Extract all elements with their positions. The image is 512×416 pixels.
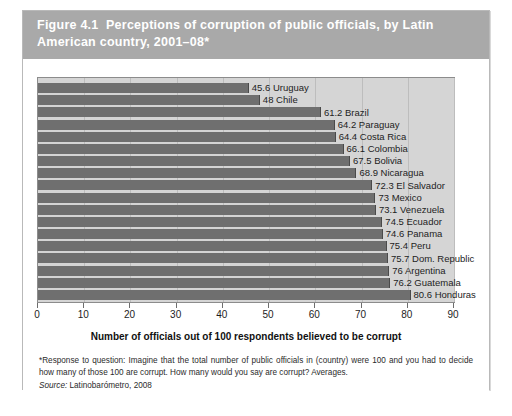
bar-data-label: 68.9 Nicaragua: [356, 168, 423, 178]
bar-row: 68.9 Nicaragua: [38, 168, 454, 178]
bar-row: 45.6 Uruguay: [38, 83, 454, 93]
bar-ecuador: [38, 217, 382, 227]
bar-row: 76 Argentina: [38, 266, 454, 276]
x-tick-mark: [222, 303, 223, 308]
bar-row: 61.2 Brazil: [38, 107, 454, 117]
bar-row: 73.1 Venezuela: [38, 205, 454, 215]
bar-data-label: 80.6 Honduras: [411, 290, 476, 300]
bar-row: 76.2 Guatemala: [38, 278, 454, 288]
bar-data-label: 45.6 Uruguay: [249, 83, 309, 93]
x-axis-title: Number of officials out of 100 responden…: [23, 331, 469, 342]
x-tick-label: 20: [124, 309, 135, 320]
bar-colombia: [38, 144, 344, 154]
x-tick-label: 90: [447, 309, 458, 320]
bar-panama: [38, 229, 383, 239]
bar-data-label: 67.5 Bolivia: [350, 156, 402, 166]
bar-data-label: 66.1 Colombia: [344, 144, 408, 154]
x-axis: 0102030405060708090: [37, 303, 455, 333]
bar-row: 74.5 Ecuador: [38, 217, 454, 227]
x-tick-label: 50: [263, 309, 274, 320]
figure-body: 45.6 Uruguay48 Chile61.2 Brazil64.2 Para…: [23, 59, 489, 391]
bar-row: 75.7 Dom. Republic: [38, 253, 454, 263]
bar-paraguay: [38, 120, 335, 130]
bar-nicaragua: [38, 168, 356, 178]
source-line: Source: Latinobarómetro, 2008: [39, 381, 473, 390]
bar-row: 66.1 Colombia: [38, 144, 454, 154]
bar-row: 80.6 Honduras: [38, 290, 454, 300]
bar-row: 74.6 Panama: [38, 229, 454, 239]
bar-argentina: [38, 266, 389, 276]
x-tick-label: 70: [355, 309, 366, 320]
bar-data-label: 76 Argentina: [389, 266, 445, 276]
figure-card: Figure 4.1 Perceptions of corruption of …: [22, 10, 490, 390]
x-tick-mark: [268, 303, 269, 308]
bar-data-label: 48 Chile: [260, 95, 298, 105]
bar-venezuela: [38, 205, 376, 215]
bar-data-label: 75.7 Dom. Republic: [388, 254, 474, 264]
bar-bolivia: [38, 156, 350, 166]
bar-guatemala: [38, 278, 390, 288]
figure-title: Figure 4.1 Perceptions of corruption of …: [37, 17, 475, 51]
bar-data-label: 64.4 Costa Rica: [336, 132, 407, 142]
bar-data-label: 73.1 Venezuela: [376, 205, 445, 215]
bar-honduras: [38, 290, 411, 300]
x-tick-mark: [129, 303, 130, 308]
figure-header-band: Figure 4.1 Perceptions of corruption of …: [23, 11, 489, 59]
bar-data-label: 64.2 Paraguay: [335, 120, 400, 130]
bar-row: 72.3 El Salvador: [38, 180, 454, 190]
source-value: Latinobarómetro, 2008: [67, 381, 152, 390]
bar-row: 75.4 Peru: [38, 241, 454, 251]
bar-uruguay: [38, 83, 249, 93]
bar-brazil: [38, 107, 321, 117]
bar-row: 67.5 Bolivia: [38, 156, 454, 166]
bar-peru: [38, 241, 387, 251]
bar-data-label: 74.6 Panama: [383, 229, 443, 239]
bar-row: 64.4 Costa Rica: [38, 132, 454, 142]
bar-row: 48 Chile: [38, 95, 454, 105]
bar-data-label: 76.2 Guatemala: [390, 278, 461, 288]
bar-data-label: 75.4 Peru: [387, 241, 431, 251]
bar-costa-rica: [38, 132, 336, 142]
x-tick-label: 30: [170, 309, 181, 320]
plot-panel: 45.6 Uruguay48 Chile61.2 Brazil64.2 Para…: [37, 77, 455, 303]
bar-mexico: [38, 193, 375, 203]
bar-row: 73 Mexico: [38, 193, 454, 203]
x-tick-label: 0: [34, 309, 40, 320]
x-tick-mark: [83, 303, 84, 308]
x-tick-mark: [407, 303, 408, 308]
bar-el-salvador: [38, 180, 372, 190]
bar-dom-republic: [38, 253, 388, 263]
gridline: [454, 78, 455, 302]
x-tick-label: 80: [401, 309, 412, 320]
x-tick-label: 60: [309, 309, 320, 320]
x-tick-mark: [361, 303, 362, 308]
bars-layer: 45.6 Uruguay48 Chile61.2 Brazil64.2 Para…: [38, 78, 454, 302]
bar-chile: [38, 95, 260, 105]
bar-data-label: 73 Mexico: [375, 193, 421, 203]
bar-data-label: 61.2 Brazil: [321, 108, 369, 118]
footnote-text: *Response to question: Imagine that the …: [39, 355, 473, 379]
figure-screenshot: Figure 4.1 Perceptions of corruption of …: [0, 0, 512, 416]
bar-data-label: 74.5 Ecuador: [382, 217, 442, 227]
bar-row: 64.2 Paraguay: [38, 120, 454, 130]
source-label: Source:: [39, 381, 67, 390]
x-tick-mark: [37, 303, 38, 308]
bar-data-label: 72.3 El Salvador: [372, 181, 445, 191]
x-tick-mark: [176, 303, 177, 308]
x-tick-label: 40: [216, 309, 227, 320]
x-tick-label: 10: [78, 309, 89, 320]
x-tick-mark: [453, 303, 454, 308]
x-tick-mark: [314, 303, 315, 308]
